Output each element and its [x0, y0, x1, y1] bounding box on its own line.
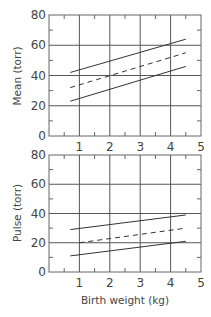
series-line-lower: [70, 241, 186, 256]
y-tick-label: 20: [31, 99, 46, 113]
x-tick-label: 2: [106, 140, 114, 154]
y-tick-label: 0: [38, 265, 46, 279]
y-tick-label: 40: [31, 69, 46, 83]
series-line-mean: [79, 228, 185, 243]
mean-pressure-plot: 02040608012345: [31, 8, 205, 154]
y-tick-label: 40: [31, 207, 46, 221]
series-line-lower: [70, 66, 186, 101]
y-tick-label: 60: [31, 177, 46, 191]
y-tick-label: 20: [31, 236, 46, 250]
bottom-y-axis-title: Pulse (torr): [11, 184, 23, 242]
x-axis-title: Birth weight (kg): [81, 294, 169, 306]
y-tick-label: 0: [38, 129, 46, 143]
x-tick-label: 1: [76, 276, 84, 290]
y-tick-label: 80: [31, 8, 46, 22]
series-line-upper: [70, 215, 186, 230]
x-tick-label: 4: [167, 276, 175, 290]
pulse-pressure-plot: 02040608012345: [31, 148, 205, 290]
x-tick-label: 4: [167, 140, 175, 154]
y-tick-label: 60: [31, 38, 46, 52]
x-tick-label: 3: [136, 140, 144, 154]
series-line-upper: [70, 39, 186, 72]
birth-weight-charts: 02040608012345 02040608012345 Mean (torr…: [0, 0, 211, 317]
x-tick-label: 1: [76, 140, 84, 154]
top-y-axis-title: Mean (torr): [11, 46, 23, 105]
x-tick-label: 5: [197, 276, 205, 290]
x-tick-label: 3: [136, 276, 144, 290]
x-tick-label: 2: [106, 276, 114, 290]
x-tick-label: 5: [197, 140, 205, 154]
y-tick-label: 80: [31, 148, 46, 162]
series-line-mean: [70, 53, 186, 88]
